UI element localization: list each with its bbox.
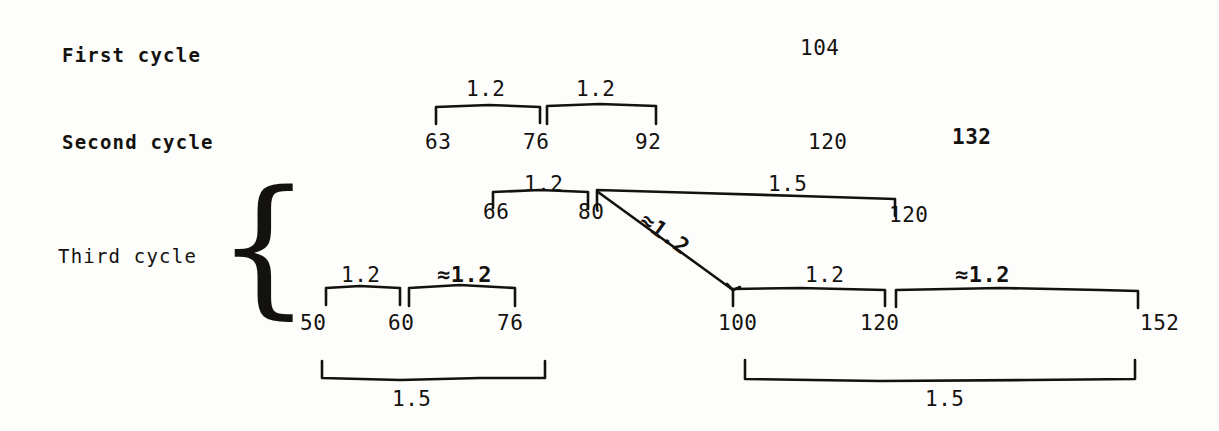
third-cycle-brace: { — [216, 171, 311, 321]
third-cycle-upper-value-80: 80 — [578, 200, 604, 224]
second-cycle-ratio-2: 1.2 — [576, 77, 615, 101]
lower-right-value-120: 120 — [860, 311, 899, 335]
second-cycle-value-120: 120 — [808, 130, 847, 154]
second-cycle-value-92: 92 — [635, 130, 661, 154]
third-cycle-upper-value-120: 120 — [889, 203, 928, 227]
lower-left-ratio-1: 1.2 — [341, 263, 380, 287]
bracket-60-76 — [409, 285, 515, 306]
third-cycle-upper-ratio-1: 1.2 — [524, 172, 563, 196]
lower-right-value-152: 152 — [1140, 311, 1179, 335]
lower-right-value-100: 100 — [718, 311, 757, 335]
second-cycle-value-76: 76 — [523, 130, 549, 154]
bracket-120-152 — [896, 288, 1138, 308]
lower-right-ratio-2: ≈1.2 — [955, 262, 1010, 287]
bracket-76-92 — [547, 104, 656, 124]
lower-right-span-ratio: 1.5 — [925, 387, 964, 411]
bracket-100-120 — [733, 288, 885, 306]
second-cycle-label: Second cycle — [62, 131, 214, 153]
third-cycle-diagonal-ratio: ≈1.2 — [635, 207, 694, 260]
second-cycle-value-63: 63 — [425, 130, 451, 154]
lower-left-value-50: 50 — [300, 311, 326, 335]
second-cycle-value-132: 132 — [952, 125, 991, 149]
third-cycle-label: Third cycle — [58, 245, 197, 267]
diagonal-arrow-tick — [727, 284, 740, 290]
bracket-63-76 — [436, 105, 540, 124]
third-cycle-upper-value-66: 66 — [483, 200, 509, 224]
lower-left-span-ratio: 1.5 — [392, 387, 431, 411]
figure-canvas: First cycle Second cycle Third cycle { 1… — [0, 0, 1219, 431]
bracket-50-60 — [326, 286, 400, 305]
lower-right-ratio-1: 1.2 — [805, 263, 844, 287]
bracket-80-120 — [597, 190, 895, 216]
first-cycle-value-104: 104 — [800, 36, 839, 60]
bracket-span-100-152 — [745, 360, 1135, 381]
bracket-span-50-76 — [322, 361, 545, 380]
first-cycle-label: First cycle — [62, 44, 201, 66]
lower-left-ratio-2: ≈1.2 — [437, 262, 492, 287]
second-cycle-ratio-1: 1.2 — [466, 77, 505, 101]
lower-left-value-76: 76 — [497, 311, 523, 335]
lower-left-value-60: 60 — [388, 311, 414, 335]
third-cycle-upper-ratio-2: 1.5 — [768, 172, 807, 196]
